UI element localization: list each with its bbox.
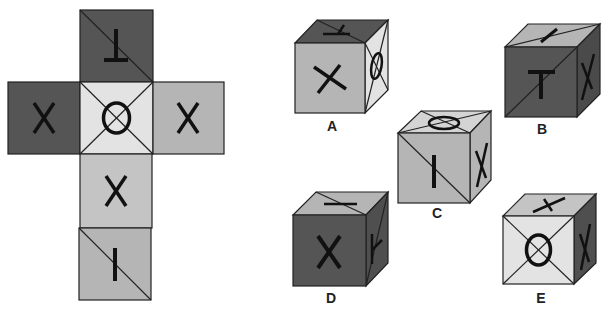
net-face-top <box>80 10 153 82</box>
cube-option-d[interactable] <box>293 192 388 286</box>
cube-option-c[interactable] <box>398 111 491 203</box>
cube-puzzle-figure <box>0 0 602 312</box>
option-label-a[interactable]: A <box>327 118 337 134</box>
cube-option-e[interactable] <box>503 194 596 284</box>
cube-option-b[interactable] <box>505 24 600 117</box>
net-face-below <box>80 154 152 228</box>
option-label-d[interactable]: D <box>326 290 336 306</box>
net-face-bottom <box>79 228 151 300</box>
option-label-e[interactable]: E <box>536 290 545 306</box>
option-label-c[interactable]: C <box>432 205 442 221</box>
net-face-left <box>8 82 80 154</box>
net-face-center <box>80 82 153 154</box>
cube-net <box>8 10 224 300</box>
cube-option-a[interactable] <box>295 20 388 113</box>
net-face-right <box>153 82 224 154</box>
option-label-b[interactable]: B <box>537 121 547 137</box>
